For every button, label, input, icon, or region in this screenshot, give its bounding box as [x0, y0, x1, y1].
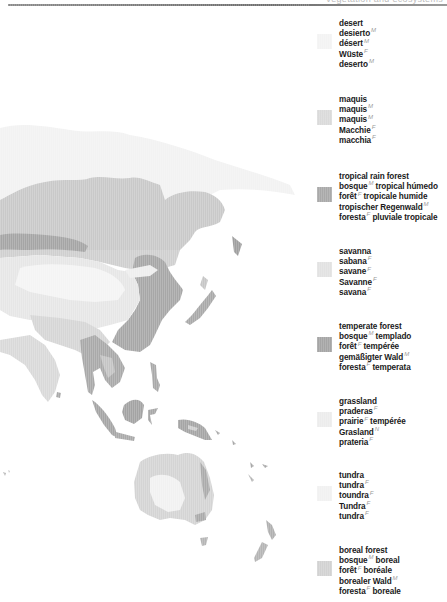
term-es: bosqueM templado [339, 332, 411, 342]
term-es: desiertoM [339, 29, 376, 39]
vegetation-map [0, 0, 310, 602]
term-it: desertoM [339, 60, 376, 70]
term-es: bosqueM boreal [339, 556, 401, 566]
term-it: forestaF temperata [339, 363, 411, 373]
term-it: forestaF pluviale tropicale [339, 213, 438, 223]
term-en: grassland [339, 397, 406, 407]
term-fr: forêtF tropicale humide [339, 192, 438, 202]
swatch-boreal-forest [317, 561, 332, 576]
legend-terms: tundra tundraF toundraF TundraF tundraF [339, 471, 373, 522]
legend-terms: savanna sabanaF savaneF SavanneF savanaF [339, 247, 377, 298]
term-it: tundraF [339, 512, 373, 522]
term-it: prateriaF [339, 438, 406, 448]
legend-terms: temperate forest bosqueM templado forêtF… [339, 322, 411, 373]
legend-terms: tropical rain forest bosqueM tropical hú… [339, 172, 438, 223]
term-it: savanaF [339, 288, 377, 298]
term-en: temperate forest [339, 322, 411, 332]
swatch-maquis [317, 110, 332, 125]
term-es: praderasF [339, 407, 406, 417]
term-de: TundraF [339, 502, 373, 512]
term-fr: désertM [339, 39, 376, 49]
term-fr: prairieF tempérée [339, 417, 406, 427]
swatch-savanna [317, 262, 332, 277]
term-de: gemäßigter WaldM [339, 353, 411, 363]
swatch-desert [317, 34, 332, 49]
term-en: tundra [339, 471, 373, 481]
legend-terms: grassland praderasF prairieF tempérée Gr… [339, 397, 406, 448]
swatch-tundra [317, 486, 332, 501]
legend-terms: desert desiertoM désertM WüsteF desertoM [339, 19, 376, 70]
term-es: tundraF [339, 481, 373, 491]
term-it: macchiaF [339, 136, 376, 146]
legend-terms: boreal forest bosqueM boreal forêtF boré… [339, 546, 401, 597]
term-es: bosqueM tropical húmedo [339, 182, 438, 192]
term-fr: forêtF tempérée [339, 342, 411, 352]
term-fr: maquisM [339, 115, 376, 125]
term-it: forestaF boreale [339, 587, 401, 597]
swatch-tropical-rain-forest [317, 187, 332, 202]
swatch-grassland [317, 412, 332, 427]
term-fr: savaneF [339, 267, 377, 277]
legend: desert desiertoM désertM WüsteF desertoM… [312, 0, 447, 602]
term-de: tropischer RegenwaldM [339, 203, 438, 213]
swatch-temperate-forest [317, 337, 332, 352]
legend-terms: maquis maquisM maquisM MacchieF macchiaF [339, 95, 376, 146]
term-fr: forêtF boréale [339, 566, 401, 576]
term-de: MacchieF [339, 126, 376, 136]
term-en: tropical rain forest [339, 172, 438, 182]
